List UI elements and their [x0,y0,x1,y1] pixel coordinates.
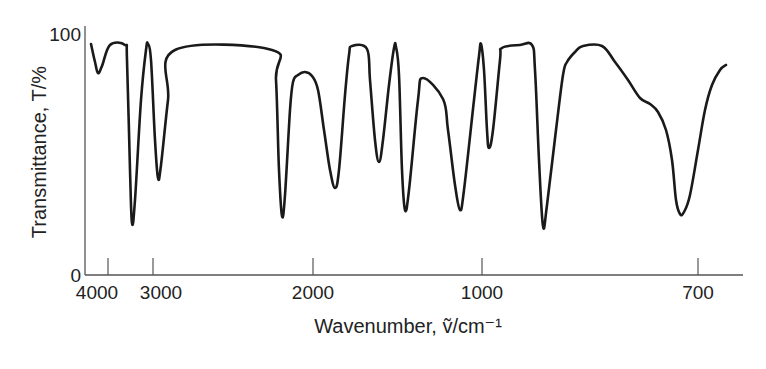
y-ticks: 0100 [49,24,81,286]
x-ticks: 4000300020001000700 [76,258,714,303]
x-tick-label: 700 [682,282,714,303]
y-axis-title: Transmittance, T/% [28,66,50,238]
x-tick-label: 4000 [76,282,118,303]
x-tick-label: 3000 [140,282,182,303]
x-tick-label: 1000 [461,282,503,303]
ir-spectrum-chart: 4000300020001000700 0100 Wavenumber, ṽ/c… [0,0,766,369]
y-tick-label: 100 [49,24,81,45]
x-axis-title: Wavenumber, ṽ/cm⁻¹ [314,315,502,337]
y-tick-label: 0 [70,265,81,286]
spectrum-line [91,42,726,228]
x-tick-label: 2000 [292,282,334,303]
axes: 4000300020001000700 0100 [49,24,743,303]
